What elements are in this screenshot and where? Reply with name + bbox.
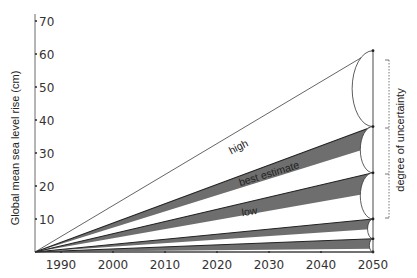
x-tick-label: 2000	[98, 258, 129, 272]
label-low: low	[241, 204, 259, 218]
sea-level-chart: 10203040506070 1990200020102020203020402…	[0, 0, 417, 278]
x-tick-label: 1990	[46, 258, 77, 272]
x-tick-label: 2030	[254, 258, 285, 272]
label-best-estimate: best estimate	[237, 158, 300, 188]
x-tick-label: 2050	[358, 258, 389, 272]
y-tick-label: 20	[39, 180, 54, 194]
label-high: high	[227, 137, 250, 157]
uncertainty-bracket	[385, 60, 389, 218]
x-tick-label: 2010	[150, 258, 181, 272]
y-tick-label: 40	[39, 114, 54, 128]
x-tick-label: 2040	[306, 258, 337, 272]
y-tick-label: 10	[39, 213, 54, 227]
end-arc	[352, 51, 373, 127]
x-axis-ticks: 1990200020102020203020402050	[46, 251, 389, 272]
y-tick-label: 60	[39, 48, 54, 62]
y-tick-label: 50	[39, 81, 54, 95]
y-axis-title: Global mean sea level rise (cm)	[9, 71, 21, 226]
x-tick-label: 2020	[202, 258, 233, 272]
uncertainty-label: degree of uncertainty	[394, 88, 406, 192]
y-axis-ticks: 10203040506070	[35, 15, 54, 227]
y-tick-label: 30	[39, 147, 54, 161]
y-tick-label: 70	[39, 15, 54, 29]
